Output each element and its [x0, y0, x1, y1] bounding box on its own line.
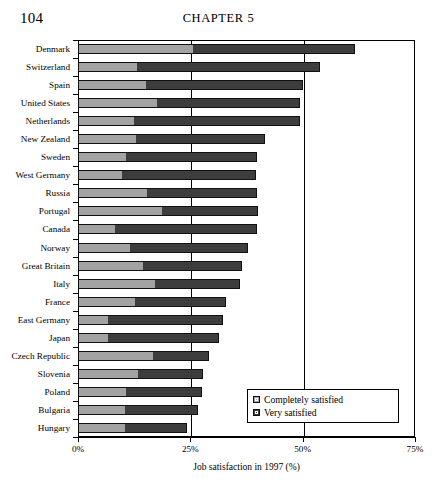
- bar-segment-completely-satisfied: [78, 405, 125, 415]
- stacked-bar: [78, 116, 300, 126]
- stacked-bar: [78, 351, 209, 361]
- category-label: Russia: [0, 188, 70, 198]
- bar-segment-very-satisfied: [126, 152, 257, 162]
- bar-segment-very-satisfied: [153, 351, 209, 361]
- bars-container: [78, 40, 415, 437]
- x-axis-tick: [78, 437, 79, 442]
- x-axis-tick: [190, 437, 191, 442]
- x-axis-tick: [303, 437, 304, 442]
- category-label: Canada: [0, 224, 70, 234]
- bar-segment-very-satisfied: [157, 98, 300, 108]
- category-label: Czech Republic: [0, 351, 70, 361]
- category-label: Denmark: [0, 44, 70, 54]
- bar-segment-completely-satisfied: [78, 116, 134, 126]
- bar-row: [78, 275, 415, 293]
- bar-segment-completely-satisfied: [78, 44, 193, 54]
- bar-segment-very-satisfied: [147, 188, 257, 198]
- category-label: Italy: [0, 279, 70, 289]
- bar-segment-very-satisfied: [126, 387, 202, 397]
- bar-row: [78, 365, 415, 383]
- bar-segment-completely-satisfied: [78, 333, 108, 343]
- stacked-bar: [78, 98, 300, 108]
- bar-chart: DenmarkSwitzerlandSpainUnited StatesNeth…: [0, 34, 437, 481]
- bar-row: [78, 148, 415, 166]
- bar-row: [78, 220, 415, 238]
- stacked-bar: [78, 206, 258, 216]
- bar-row: [78, 166, 415, 184]
- bar-segment-very-satisfied: [155, 279, 240, 289]
- bar-segment-completely-satisfied: [78, 369, 138, 379]
- bar-segment-very-satisfied: [137, 62, 320, 72]
- bar-segment-completely-satisfied: [78, 62, 137, 72]
- bar-segment-completely-satisfied: [78, 98, 157, 108]
- category-label: Spain: [0, 80, 70, 90]
- bar-segment-completely-satisfied: [78, 423, 125, 433]
- x-axis-line: [78, 437, 415, 438]
- bar-segment-very-satisfied: [138, 369, 203, 379]
- bar-row: [78, 347, 415, 365]
- stacked-bar: [78, 297, 226, 307]
- stacked-bar: [78, 152, 257, 162]
- bar-row: [78, 257, 415, 275]
- running-head: CHAPTER 5: [0, 11, 437, 26]
- legend-label: Completely satisfied: [264, 393, 343, 406]
- stacked-bar: [78, 315, 223, 325]
- bar-segment-very-satisfied: [125, 423, 187, 433]
- x-axis-tick-label: 0%: [58, 444, 98, 454]
- category-label: East Germany: [0, 315, 70, 325]
- category-label: Bulgaria: [0, 405, 70, 415]
- bar-segment-completely-satisfied: [78, 315, 108, 325]
- bar-segment-completely-satisfied: [78, 170, 122, 180]
- category-label: Japan: [0, 333, 70, 343]
- category-label: New Zealand: [0, 134, 70, 144]
- bar-segment-completely-satisfied: [78, 261, 143, 271]
- bar-segment-very-satisfied: [130, 243, 248, 253]
- x-axis-tick-label: 50%: [283, 444, 323, 454]
- bar-segment-completely-satisfied: [78, 134, 136, 144]
- category-label: Hungary: [0, 423, 70, 433]
- stacked-bar: [78, 333, 219, 343]
- legend-item-very-satisfied: Very satisfied: [253, 406, 393, 419]
- stacked-bar: [78, 369, 203, 379]
- x-axis-title: Job satisfaction in 1997 (%): [78, 462, 415, 472]
- bar-segment-completely-satisfied: [78, 279, 155, 289]
- bar-row: [78, 184, 415, 202]
- category-label: Poland: [0, 387, 70, 397]
- category-label: United States: [0, 98, 70, 108]
- bar-segment-very-satisfied: [108, 333, 219, 343]
- stacked-bar: [78, 224, 257, 234]
- bar-row: [78, 239, 415, 257]
- bar-segment-very-satisfied: [134, 116, 300, 126]
- category-label: Slovenia: [0, 369, 70, 379]
- category-label: Norway: [0, 243, 70, 253]
- stacked-bar: [78, 279, 240, 289]
- stacked-bar: [78, 423, 187, 433]
- bar-segment-very-satisfied: [136, 134, 265, 144]
- bar-row: [78, 293, 415, 311]
- bar-row: [78, 329, 415, 347]
- category-label: Portugal: [0, 206, 70, 216]
- x-axis-tick: [415, 437, 416, 442]
- bar-row: [78, 130, 415, 148]
- bar-row: [78, 58, 415, 76]
- stacked-bar: [78, 405, 198, 415]
- bar-row: [78, 76, 415, 94]
- bar-segment-very-satisfied: [108, 315, 223, 325]
- stacked-bar: [78, 134, 265, 144]
- category-label: France: [0, 297, 70, 307]
- bar-segment-completely-satisfied: [78, 152, 126, 162]
- category-label: Switzerland: [0, 62, 70, 72]
- x-axis-tick-label: 25%: [170, 444, 210, 454]
- page-header: 104 CHAPTER 5: [0, 10, 437, 32]
- bar-segment-completely-satisfied: [78, 351, 153, 361]
- bar-segment-very-satisfied: [135, 297, 226, 307]
- bar-segment-completely-satisfied: [78, 188, 147, 198]
- category-axis: DenmarkSwitzerlandSpainUnited StatesNeth…: [0, 40, 75, 437]
- legend-swatch-icon: [253, 396, 260, 403]
- bar-row: [78, 112, 415, 130]
- bar-segment-completely-satisfied: [78, 206, 162, 216]
- category-label: West Germany: [0, 170, 70, 180]
- bar-row: [78, 94, 415, 112]
- bar-segment-completely-satisfied: [78, 80, 146, 90]
- bar-segment-very-satisfied: [193, 44, 356, 54]
